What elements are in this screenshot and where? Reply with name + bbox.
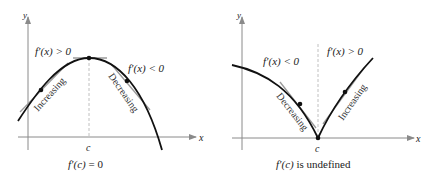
label-decreasing: Decreasing bbox=[274, 90, 310, 132]
annotation-derivative-negative: f′(x) < 0 bbox=[263, 55, 300, 68]
caption-left: f′(c) = 0 bbox=[68, 158, 103, 171]
c-label: c bbox=[86, 142, 91, 153]
c-label: c bbox=[315, 143, 320, 154]
caption-right: f′(c) is undefined bbox=[276, 158, 351, 171]
x-axis-label: x bbox=[198, 132, 204, 143]
caption-right-lhs: f′(c) bbox=[276, 158, 294, 171]
caption-left-lhs: f′(c) bbox=[68, 158, 86, 171]
curve-right-branch bbox=[318, 58, 373, 138]
annotation-derivative-positive: f′(x) > 0 bbox=[35, 45, 72, 58]
point-decreasing bbox=[125, 79, 130, 84]
point-increasing bbox=[39, 88, 44, 93]
point-cusp bbox=[316, 136, 321, 141]
annotation-derivative-positive: f′(x) > 0 bbox=[327, 45, 364, 58]
label-decreasing: Decreasing bbox=[106, 71, 141, 114]
diagram-canvas: y x c f′(x) > 0 f′(x) < 0 Increasing Dec… bbox=[0, 0, 436, 182]
figure-right: y x c f′(x) < 0 f′(x) > 0 Decreasing Inc… bbox=[232, 10, 421, 171]
label-increasing: Increasing bbox=[336, 82, 369, 122]
x-axis-label: x bbox=[415, 133, 421, 144]
caption-right-rest: is undefined bbox=[294, 158, 351, 170]
point-increasing bbox=[343, 90, 348, 95]
figure-left: y x c f′(x) > 0 f′(x) < 0 Increasing Dec… bbox=[18, 10, 204, 171]
point-decreasing bbox=[298, 102, 303, 107]
point-max bbox=[87, 56, 92, 61]
caption-left-rest: = 0 bbox=[86, 158, 104, 170]
y-axis-label: y bbox=[236, 10, 241, 20]
y-axis-label: y bbox=[22, 10, 27, 20]
annotation-derivative-negative: f′(x) < 0 bbox=[128, 62, 165, 75]
